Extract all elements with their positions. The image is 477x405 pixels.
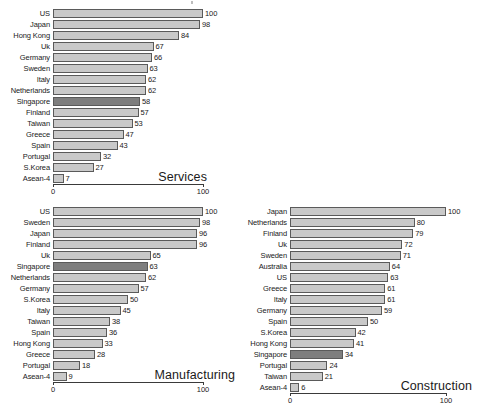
bar-category-label: Portugal: [0, 360, 53, 371]
bar: [290, 240, 402, 249]
bar-row: Italy61: [242, 294, 477, 305]
bar-category-label: Netherlands: [0, 272, 53, 283]
axis-tick-label: 0: [51, 187, 55, 197]
bar-value-label: 24: [329, 360, 337, 371]
bar-track: 28: [53, 349, 240, 360]
bar-category-label: Spain: [0, 140, 53, 151]
bar: [53, 273, 146, 282]
bar-category-label: Japan: [0, 228, 53, 239]
bar: [53, 207, 203, 216]
bar: [290, 273, 388, 282]
bar-value-label: 65: [153, 250, 161, 261]
bar-category-label: Taiwan: [242, 371, 290, 382]
bar-value-label: 72: [404, 239, 412, 250]
bar-row: Sweden98: [0, 217, 240, 228]
bar-category-label: Uk: [242, 239, 290, 250]
bar-row: Uk67: [0, 41, 240, 52]
bar-value-label: 45: [123, 305, 131, 316]
bar-row: Sweden63: [0, 63, 240, 74]
axis-tick-label: 100: [440, 396, 453, 405]
bar-value-label: 96: [199, 228, 207, 239]
bar-category-label: Australia: [242, 261, 290, 272]
bar-track: 50: [53, 294, 240, 305]
bar-track: 61: [290, 283, 477, 294]
axis-line: [53, 382, 203, 383]
bar-value-label: 62: [148, 272, 156, 283]
bar-category-label: Finland: [242, 228, 290, 239]
bar-track: 33: [53, 338, 240, 349]
bar: [53, 361, 80, 370]
bar-value-label: 57: [141, 283, 149, 294]
bar: [53, 64, 148, 73]
bar-track: 98: [53, 217, 240, 228]
bar-value-label: 34: [345, 349, 353, 360]
bar-row: Singapore63: [0, 261, 240, 272]
bar: [53, 86, 146, 95]
x-axis-services: 0100: [0, 184, 240, 200]
bar-category-label: Sweden: [242, 250, 290, 261]
bar-category-label: Asean-4: [0, 371, 53, 382]
bar-category-label: Finland: [0, 239, 53, 250]
bar: [53, 75, 146, 84]
bar-category-label: S.Korea: [0, 294, 53, 305]
bar-track: 34: [290, 349, 477, 360]
bar-track: 50: [290, 316, 477, 327]
bar-track: 32: [53, 151, 240, 162]
bar: [290, 218, 415, 227]
bar-category-label: Sweden: [0, 217, 53, 228]
bar-category-label: Netherlands: [242, 217, 290, 228]
bar-category-label: Uk: [0, 41, 53, 52]
bar: [290, 284, 385, 293]
bar-category-label: Netherlands: [0, 85, 53, 96]
bar-track: 64: [290, 261, 477, 272]
bar-category-label: Spain: [242, 316, 290, 327]
bar: [53, 108, 139, 117]
bar-row: Sweden71: [242, 250, 477, 261]
bar-category-label: Taiwan: [0, 118, 53, 129]
bar: [53, 251, 151, 260]
bar-value-label: 9: [69, 371, 73, 382]
bar: [290, 306, 382, 315]
bar-row: Hong Kong33: [0, 338, 240, 349]
bar: [53, 141, 118, 150]
bar-track: 63: [53, 63, 240, 74]
bar-value-label: 63: [150, 63, 158, 74]
bar-row: Hong Kong41: [242, 338, 477, 349]
bar-value-label: 18: [82, 360, 90, 371]
bar-track: 45: [53, 305, 240, 316]
bar: [290, 251, 401, 260]
bar-category-label: Taiwan: [0, 316, 53, 327]
bar: [53, 119, 133, 128]
bar-row: Japan96: [0, 228, 240, 239]
bar-category-label: Italy: [0, 305, 53, 316]
bar-row: Uk72: [242, 239, 477, 250]
bar-row: Taiwan53: [0, 118, 240, 129]
bar-value-label: 7: [66, 173, 70, 184]
bar-value-label: 47: [126, 129, 134, 140]
bar-value-label: 21: [325, 371, 333, 382]
bar-row: Finland96: [0, 239, 240, 250]
bar-category-label: Finland: [0, 107, 53, 118]
bar-category-label: Portugal: [242, 360, 290, 371]
bar-track: 62: [53, 74, 240, 85]
bar-row: Greece28: [0, 349, 240, 360]
bar: [290, 339, 354, 348]
bar-category-label: Italy: [242, 294, 290, 305]
bar: [53, 295, 128, 304]
bar: [290, 229, 413, 238]
bar-row: S.Korea50: [0, 294, 240, 305]
axis-line: [290, 393, 446, 394]
bar-value-label: 32: [103, 151, 111, 162]
bar: [290, 262, 390, 271]
bar-value-label: 63: [150, 261, 158, 272]
bar-category-label: Asean-4: [242, 382, 290, 393]
bar-value-label: 96: [199, 239, 207, 250]
bar-value-label: 61: [387, 283, 395, 294]
bar-category-label: Hong Kong: [0, 30, 53, 41]
bar-rows-manufacturing: US100Sweden98Japan96Finland96Uk65Singapo…: [0, 206, 240, 382]
bar-track: 96: [53, 239, 240, 250]
bar-track: 47: [53, 129, 240, 140]
bar-row: US100: [0, 8, 240, 19]
bar: [53, 284, 139, 293]
bar-highlighted: [53, 262, 148, 271]
